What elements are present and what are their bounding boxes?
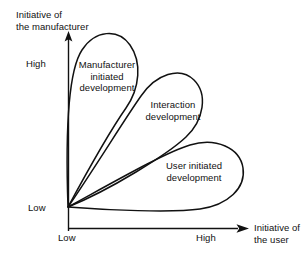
region-label-3-line2: development [167,172,222,183]
region-label-user-initiated: User initiated development [157,160,231,183]
region-label-2-line1: Interaction [151,99,196,110]
region-label-1-line3: development [80,82,135,93]
x-axis-label-line1: Initiative of [254,222,300,233]
diagram-canvas: Initiative of the manufacturer Initiativ… [0,0,304,259]
y-axis-label-line2: the manufacturer [16,21,89,32]
region-label-2-line2: development [146,111,201,122]
x-axis-arrow-icon [237,224,250,232]
y-axis-label: Initiative of the manufacturer [16,9,89,32]
region-label-interaction: Interaction development [139,99,207,122]
x-axis-label: Initiative of the user [254,222,300,245]
region-label-manufacturer-initiated: Manufacturer initiated development [70,59,144,94]
x-axis-label-line2: the user [254,234,289,245]
region-label-1-line1: Manufacturer [79,59,136,70]
y-axis-tick-high: High [26,58,46,70]
region-label-3-line1: User initiated [166,160,222,171]
region-label-1-line2: initiated [90,71,123,82]
x-axis-tick-high: High [196,232,216,244]
y-axis-tick-low: Low [28,202,46,214]
y-axis-label-line1: Initiative of [16,9,62,20]
x-axis-tick-low: Low [58,232,76,244]
diagram-vector-layer [0,0,304,259]
